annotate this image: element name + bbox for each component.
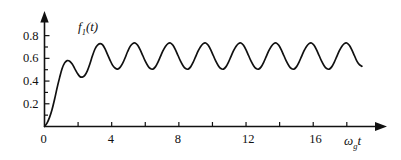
x-axis-arrow-icon (375, 122, 387, 131)
y-axis-title-argument: (t) (86, 19, 98, 34)
y-axis-tick-label: 0.4 (9, 75, 39, 88)
x-axis-tick-label: 4 (108, 133, 114, 146)
y-axis-tick-label: 0.2 (9, 98, 39, 111)
x-axis-tick-label: 16 (309, 133, 322, 146)
chart-plot-area (0, 0, 401, 160)
chart-figure: 0.20.40.60.8 0481216 f1(t) ωgt (0, 0, 401, 160)
x-axis-tick-label: 0 (41, 133, 47, 146)
y-axis-tick-label: 0.8 (9, 30, 39, 43)
x-axis-title-omega: ω (344, 133, 353, 148)
x-axis-title: ωgt (344, 134, 361, 150)
x-axis-tick-label: 8 (175, 133, 181, 146)
x-axis-title-variable: t (357, 133, 361, 148)
y-axis-arrow-icon (40, 11, 48, 23)
y-axis-tick-label: 0.6 (9, 52, 39, 65)
x-axis-tick-label: 12 (242, 133, 255, 146)
data-series-curve (45, 43, 362, 127)
y-axis-title: f1(t) (78, 20, 98, 36)
